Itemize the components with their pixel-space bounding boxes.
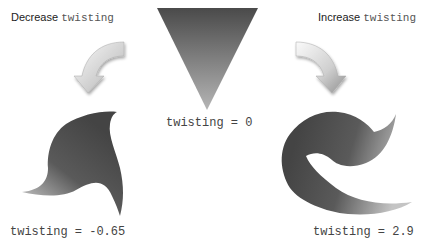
decrease-word: Decrease [11, 11, 58, 23]
left-blade-shape [22, 112, 123, 217]
increase-caption: Increase twisting [318, 11, 416, 24]
center-triangle-shape [157, 8, 258, 110]
increase-word: Increase [318, 11, 360, 23]
decrease-caption: Decrease twisting [11, 11, 114, 24]
center-twisting-label: twisting = 0 [166, 116, 252, 130]
left-twisting-label: twisting = -0.65 [10, 225, 125, 239]
right-spiral-shape [282, 112, 412, 215]
increase-arrow-icon [296, 42, 346, 93]
decrease-param: twisting [61, 12, 114, 24]
increase-param: twisting [363, 12, 416, 24]
decrease-arrow-icon [74, 42, 124, 93]
right-twisting-label: twisting = 2.9 [313, 225, 414, 239]
